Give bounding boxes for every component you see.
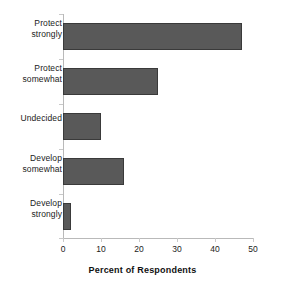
x-axis-tick-label: 30 [165,244,189,254]
x-axis-tick-label: 40 [203,244,227,254]
plot-area [63,14,253,238]
category-label-line: somewhat [2,164,62,175]
x-axis-tick [177,238,178,242]
category-label-develop-somewhat: Develop somewhat [2,153,62,174]
bar-row-develop-somewhat [63,158,253,185]
x-axis-tick [139,238,140,242]
x-axis-line [63,238,254,239]
category-label-line: Protect [2,18,62,29]
bar-chart: Protect strongly Protect somewhat Undeci… [0,0,285,293]
bar-row-develop-strongly [63,203,253,230]
category-label-protect-strongly: Protect strongly [2,18,62,39]
category-label-undecided: Undecided [2,113,62,124]
category-label-line: strongly [2,29,62,40]
bar-develop-somewhat [63,158,124,185]
x-axis-title: Percent of Respondents [0,265,285,275]
bar-protect-somewhat [63,68,158,95]
category-label-protect-somewhat: Protect somewhat [2,63,62,84]
bar-row-protect-strongly [63,23,253,50]
category-label-line: strongly [2,209,62,220]
x-axis-tick [215,238,216,242]
category-label-develop-strongly: Develop strongly [2,198,62,219]
category-label-line: Protect [2,63,62,74]
category-label-line: Develop [2,153,62,164]
category-label-line: Develop [2,198,62,209]
x-axis-tick [253,238,254,242]
bar-develop-strongly [63,203,71,230]
x-axis-tick-label: 0 [51,244,75,254]
bar-undecided [63,113,101,140]
bar-row-protect-somewhat [63,68,253,95]
x-axis-tick-label: 50 [241,244,265,254]
bar-row-undecided [63,113,253,140]
category-label-line: Undecided [2,113,62,124]
x-axis-tick-label: 20 [127,244,151,254]
x-axis-tick [63,238,64,242]
x-axis-tick [101,238,102,242]
bar-protect-strongly [63,23,242,50]
category-label-line: somewhat [2,74,62,85]
x-axis-tick-label: 10 [89,244,113,254]
